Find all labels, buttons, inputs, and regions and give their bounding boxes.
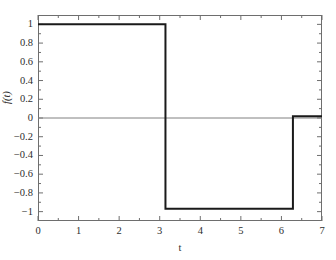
plot-area xyxy=(38,15,322,221)
y-tick-label: −0.2 xyxy=(14,131,33,142)
y-tick-label: 1 xyxy=(28,19,33,30)
y-tick-label: 0.6 xyxy=(20,57,33,68)
x-tick-label: 6 xyxy=(279,226,284,237)
y-tick-label: 0 xyxy=(28,113,33,124)
x-tick-label: 7 xyxy=(319,226,324,237)
x-tick-label: 4 xyxy=(198,226,203,237)
y-tick-label: −0.6 xyxy=(14,169,33,180)
figure: 10.80.60.40.20−0.2−0.4−0.6−0.8−1 0123456… xyxy=(0,0,336,260)
x-axis-title: t xyxy=(38,243,322,254)
x-tick-label: 3 xyxy=(157,226,162,237)
data-series-line xyxy=(38,24,322,208)
y-tick-label: −0.4 xyxy=(14,150,33,161)
x-tick-label: 5 xyxy=(238,226,243,237)
y-tick-label: 0.2 xyxy=(20,94,33,105)
y-axis-title: f(t) xyxy=(2,91,13,104)
x-axis-tick-labels: 01234567 xyxy=(38,226,322,240)
x-tick-label: 1 xyxy=(76,226,81,237)
plot-canvas xyxy=(38,15,322,221)
y-tick-label: −0.8 xyxy=(14,188,33,199)
y-axis-tick-labels: 10.80.60.40.20−0.2−0.4−0.6−0.8−1 xyxy=(0,15,33,221)
y-tick-label: 0.8 xyxy=(20,38,33,49)
x-tick-label: 0 xyxy=(35,226,40,237)
y-tick-label: 0.4 xyxy=(20,75,33,86)
x-tick-label: 2 xyxy=(117,226,122,237)
y-tick-label: −1 xyxy=(22,206,33,217)
